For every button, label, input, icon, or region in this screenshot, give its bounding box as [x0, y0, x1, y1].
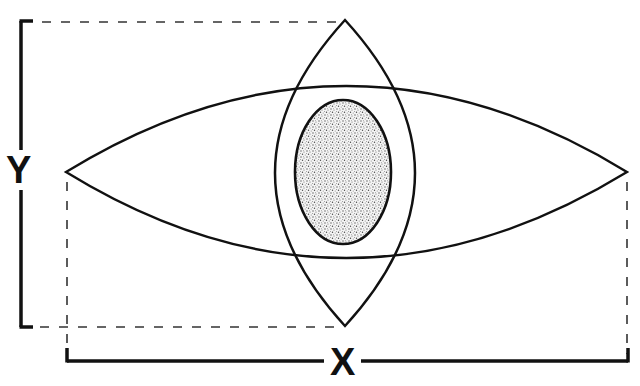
- y-axis-label: Y: [2, 151, 35, 189]
- x-axis-label: X: [326, 343, 359, 381]
- core-ellipse: [295, 100, 391, 244]
- eye-dimension-diagram: [0, 0, 640, 386]
